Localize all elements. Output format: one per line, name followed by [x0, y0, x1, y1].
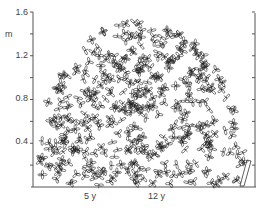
x-marker-label: 5 y — [84, 192, 96, 201]
crown-drawing — [0, 0, 262, 212]
y-tick-label: 1.2 — [2, 51, 28, 60]
x-marker-label: 12 y — [148, 192, 165, 201]
stem-icon — [240, 160, 251, 186]
y-tick-label: 1.6 — [2, 8, 28, 17]
y-tick-label: 0.4 — [2, 137, 28, 146]
y-tick-label: 0.8 — [2, 94, 28, 103]
foliage-leaves — [34, 17, 249, 191]
y-axis-unit: m — [5, 30, 13, 39]
crown-profile-figure: m 1.6 1.2 0.8 0.4 5 y 12 y — [0, 0, 262, 212]
